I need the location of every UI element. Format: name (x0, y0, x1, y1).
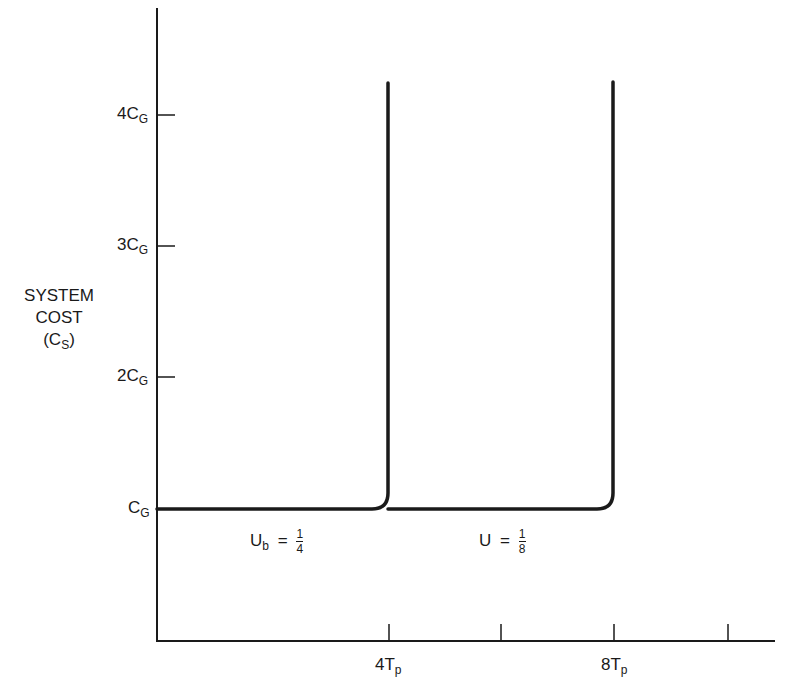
y-axis-title-line2: COST (4, 307, 114, 329)
fraction-one-quarter: 14 (296, 528, 303, 555)
x-tick-label-8tp: 8Tp (601, 656, 628, 676)
x-tick-label-4tp: 4Tp (375, 656, 402, 676)
annotation-ub: Ub = 14 (250, 528, 303, 555)
y-axis-title-line1: SYSTEM (4, 285, 114, 307)
y-tick-label-2: 2CG (117, 367, 148, 387)
y-axis-title-line3: (CS) (4, 329, 114, 356)
y-tick-label-1: CG (128, 499, 150, 519)
y-axis-title: SYSTEM COST (CS) (4, 285, 114, 356)
fraction-one-eighth: 18 (519, 528, 526, 555)
y-tick-label-3: 3CG (117, 236, 148, 256)
curve-ub-quarter (157, 83, 388, 509)
annotation-u: U = 18 (479, 528, 526, 555)
curve-u-eighth (388, 82, 613, 509)
y-tick-label-4: 4CG (117, 105, 148, 125)
